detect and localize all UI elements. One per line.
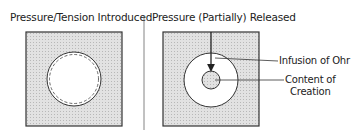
right-panel xyxy=(163,32,284,126)
label-content-line2: Creation xyxy=(285,86,336,98)
label-infusion: Infusion of Ohr xyxy=(279,55,350,67)
void-circle xyxy=(47,52,101,106)
diagram xyxy=(0,0,355,136)
label-content: Content of Creation xyxy=(285,74,336,98)
label-content-line1: Content of xyxy=(285,74,336,86)
left-panel xyxy=(26,32,122,126)
